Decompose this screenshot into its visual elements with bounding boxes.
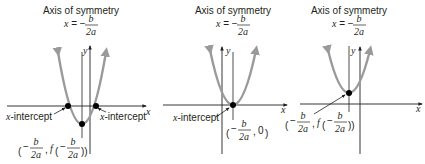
equation-denominator: 2a: [238, 26, 248, 37]
svg-text:2a: 2a: [68, 149, 78, 160]
svg-text:(: (: [55, 146, 59, 157]
svg-text:(: (: [322, 120, 326, 131]
graph-two-intercepts: Axis of symmetry x = − b 2a x y x-interc…: [5, 5, 151, 160]
svg-text:b: b: [338, 110, 343, 121]
right-x-intercept-label: x-intercept: [99, 111, 146, 122]
vertex-coordinate-label: ( − b 2a , f ( − b 2a )): [18, 136, 88, 160]
axis-of-symmetry-title: Axis of symmetry: [311, 5, 387, 16]
svg-text:)): )): [81, 146, 88, 157]
left-intercept-leader: [54, 108, 65, 114]
y-axis-label: y: [350, 45, 356, 56]
axis-of-symmetry-title: Axis of symmetry: [43, 5, 119, 16]
axis-of-symmetry-title: Axis of symmetry: [195, 5, 271, 16]
svg-text:): ): [265, 128, 268, 139]
equation-numerator: b: [357, 13, 362, 24]
symmetry-equation-lhs: x = −: [331, 18, 354, 29]
y-axis-label: y: [82, 45, 88, 56]
svg-text:f: f: [317, 117, 321, 128]
svg-text:2a: 2a: [31, 149, 41, 160]
svg-text:b: b: [34, 136, 39, 147]
symmetry-equation-lhs: x = −: [215, 18, 238, 29]
svg-text:−: −: [327, 115, 333, 126]
svg-text:(: (: [285, 120, 289, 131]
parabola-diagram: Axis of symmetry x = − b 2a x y x-interc…: [0, 0, 425, 164]
vertex-point: [79, 121, 85, 127]
symmetry-equation-lhs: x = −: [63, 18, 86, 29]
svg-text:−: −: [290, 115, 296, 126]
graph-no-intercepts: Axis of symmetry x = − b 2a x y ( − b 2a…: [285, 5, 422, 154]
left-x-intercept-point: [65, 103, 71, 109]
svg-text:,: ,: [253, 126, 256, 137]
equation-denominator: 2a: [86, 26, 96, 37]
svg-text:(: (: [18, 146, 22, 157]
x-axis-label: x: [415, 103, 421, 114]
svg-text:,: ,: [312, 118, 315, 129]
svg-text:−: −: [231, 123, 237, 134]
x-intercept-label: x-intercept: [172, 112, 219, 123]
svg-text:−: −: [60, 141, 66, 152]
svg-text:,: ,: [45, 144, 48, 155]
equation-numerator: b: [241, 13, 246, 24]
equation-numerator: b: [89, 13, 94, 24]
vertex-coordinate-label: ( − b 2a , 0 ): [226, 118, 268, 142]
svg-text:−: −: [23, 141, 29, 152]
svg-text:2a: 2a: [298, 123, 308, 134]
x-axis-label: x: [280, 104, 286, 115]
svg-text:(: (: [226, 128, 230, 139]
svg-text:0: 0: [258, 125, 264, 136]
svg-text:b: b: [242, 118, 247, 129]
svg-text:2a: 2a: [335, 123, 345, 134]
svg-text:)): )): [348, 120, 355, 131]
vertex-point: [346, 90, 352, 96]
svg-text:f: f: [50, 143, 54, 154]
vertex-coordinate-label: ( − b 2a , f ( − b 2a )): [285, 110, 355, 134]
svg-text:b: b: [301, 110, 306, 121]
y-axis-label: y: [225, 45, 231, 56]
svg-text:2a: 2a: [239, 131, 249, 142]
left-x-intercept-label: x-intercept: [5, 111, 52, 122]
equation-denominator: 2a: [354, 26, 364, 37]
svg-text:b: b: [71, 136, 76, 147]
graph-one-intercept: Axis of symmetry x = − b 2a x y x-interc…: [163, 5, 287, 154]
vertex-x-intercept-point: [230, 102, 236, 108]
